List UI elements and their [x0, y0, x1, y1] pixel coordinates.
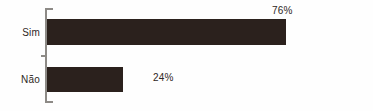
- axis-tick-middle: [41, 55, 46, 57]
- bar-sim: [47, 19, 286, 45]
- value-label-nao: 24%: [153, 72, 174, 83]
- value-label-sim: 76%: [272, 5, 293, 16]
- axis-cap-top: [45, 8, 53, 10]
- axis-cap-bottom: [45, 101, 53, 103]
- category-label-sim: Sim: [0, 27, 40, 38]
- bar-chart: Sim Não 76% 24%: [0, 0, 373, 111]
- category-label-nao: Não: [0, 74, 40, 85]
- bar-nao: [47, 67, 123, 92]
